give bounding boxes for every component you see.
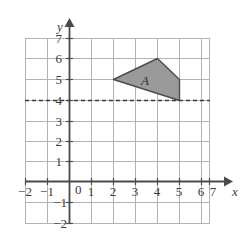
x-tick-label-1: 1 (88, 184, 95, 199)
y-tick-label-4: 4 (56, 93, 63, 108)
shape-label-a: A (140, 73, 149, 88)
coordinate-grid-figure: A (0, 0, 242, 247)
x-tick-label-4: 4 (154, 184, 161, 199)
x-tick-label-2: 2 (110, 184, 117, 199)
y-tick-label--1: −1 (53, 195, 67, 210)
y-tick-label-2: 2 (56, 134, 63, 149)
y-tick-label-3: 3 (56, 114, 63, 129)
x-tick-label--1: −1 (40, 184, 54, 199)
x-tick-label-7: 7 (210, 184, 217, 199)
x-axis-tick-labels: −2 −1 1 2 3 4 5 6 7 (18, 184, 217, 199)
y-tick-label--2: −2 (53, 216, 67, 231)
x-tick-label-3: 3 (132, 184, 139, 199)
y-tick-label-6: 6 (56, 51, 63, 66)
x-tick-label-6: 6 (198, 184, 205, 199)
coordinate-plane: A (0, 0, 242, 247)
x-tick-label--2: −2 (18, 184, 32, 199)
y-tick-label-5: 5 (56, 72, 63, 87)
y-tick-label-1: 1 (56, 154, 63, 169)
origin-label: 0 (75, 182, 82, 197)
x-axis-label: x (231, 184, 238, 199)
y-axis-label: y (55, 19, 63, 34)
x-tick-label-5: 5 (176, 184, 183, 199)
y-axis-arrow-icon (65, 18, 75, 27)
y-axis-tick-labels: 7 6 5 4 3 2 1 −1 −2 (53, 31, 67, 231)
